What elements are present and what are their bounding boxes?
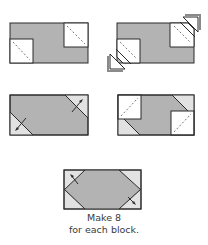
quilt-diagram — [0, 0, 208, 245]
step-3-unit — [10, 95, 88, 135]
instruction-caption: Make 8 for each block. — [0, 212, 208, 236]
step-1-unit — [10, 23, 88, 63]
step-2-unit — [108, 15, 200, 71]
step-5-unit — [64, 170, 141, 209]
caption-line-2: for each block. — [0, 224, 208, 236]
caption-line-1: Make 8 — [0, 212, 208, 224]
step-4-unit — [118, 95, 194, 135]
